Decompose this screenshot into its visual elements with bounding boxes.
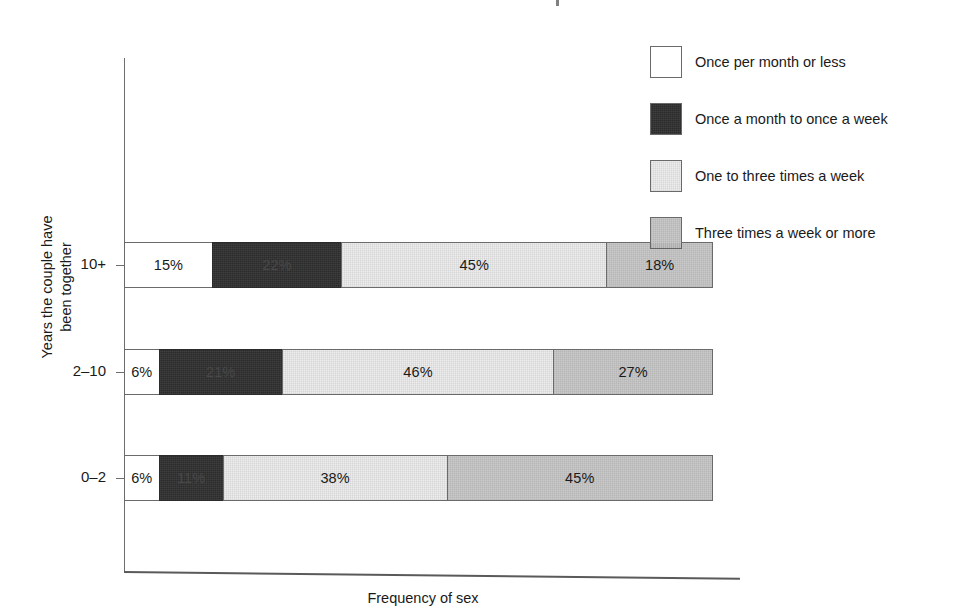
white-swatch	[650, 46, 682, 78]
legend-item[interactable]: One to three times a week	[650, 160, 888, 192]
y-axis-category-label-text: 10+	[81, 255, 106, 272]
bar-2–10: 6%21%46%27%	[124, 349, 716, 395]
stacked-bar-chart-figure: Years the couple have been together Freq…	[0, 0, 954, 615]
x-axis-title: Frequency of sex	[0, 590, 954, 606]
bar-0–2: 6%11%38%45%	[124, 455, 716, 501]
legend-item[interactable]: Once a month to once a week	[650, 103, 888, 135]
scan-artifact	[556, 0, 559, 6]
bar-segment-value: 46%	[403, 364, 432, 380]
bar-segment: 46%	[282, 349, 554, 395]
bar-segment: 45%	[341, 242, 607, 288]
bar-segment: 6%	[124, 349, 160, 395]
bar-segment-value: 18%	[645, 257, 674, 273]
light-gray-swatch	[650, 160, 682, 192]
legend-item-label: Once a month to once a week	[695, 111, 888, 127]
y-axis-category-label-text: 2–10	[73, 362, 106, 379]
x-axis-line	[124, 571, 740, 580]
legend-item[interactable]: Once per month or less	[650, 46, 888, 78]
y-axis-tick	[116, 372, 124, 373]
black-swatch	[650, 103, 682, 135]
bar-segment: 21%	[159, 349, 283, 395]
bar-segment: 22%	[212, 242, 342, 288]
medium-gray-swatch	[650, 217, 682, 249]
legend-item-label: One to three times a week	[695, 168, 864, 184]
legend-item[interactable]: Three times a week or more	[650, 217, 888, 249]
bar-segment: 38%	[223, 455, 448, 501]
y-axis-title: Years the couple have been together	[38, 172, 76, 402]
bar-segment: 6%	[124, 455, 160, 501]
bar-segment-value: 38%	[320, 470, 349, 486]
bar-segment-value: 6%	[131, 364, 152, 380]
y-axis-tick	[116, 478, 124, 479]
legend-item-label: Once per month or less	[695, 54, 846, 70]
bar-segment-value: 27%	[618, 364, 647, 380]
bar-segment: 11%	[159, 455, 224, 501]
bar-segment: 45%	[447, 455, 713, 501]
bar-segment-value: 15%	[154, 257, 183, 273]
bar-segment-value: 6%	[131, 470, 152, 486]
bar-segment-value: 45%	[460, 257, 489, 273]
legend: Once per month or lessOnce a month to on…	[650, 46, 888, 249]
bar-segment-value: 11%	[177, 470, 205, 486]
y-axis-category-label-text: 0–2	[81, 468, 106, 485]
bar-segment-value: 21%	[206, 364, 235, 380]
bar-segment-value: 45%	[565, 470, 594, 486]
bar-segment: 15%	[124, 242, 213, 288]
y-axis-tick	[116, 265, 124, 266]
x-axis-title-text: Frequency of sex	[367, 590, 478, 606]
bar-10+: 15%22%45%18%	[124, 242, 716, 288]
bar-segment-value: 22%	[262, 257, 291, 273]
legend-item-label: Three times a week or more	[695, 225, 876, 241]
y-axis-title-line-1: Years the couple have	[38, 172, 57, 402]
bar-segment: 27%	[553, 349, 713, 395]
